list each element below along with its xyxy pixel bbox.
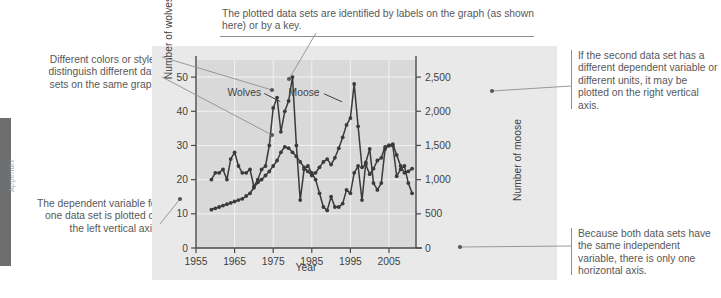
y-axis-left-title: Number of wolves xyxy=(163,0,174,98)
svg-text:1,500: 1,500 xyxy=(425,140,451,151)
annotation-top-text: The plotted data sets are identified by … xyxy=(222,8,534,31)
svg-text:500: 500 xyxy=(425,208,442,219)
annotation-bottom-left: The dependent variable for one data set … xyxy=(28,198,160,235)
figure-panel: 0102030405005001,0001,5002,0002,50019551… xyxy=(152,46,557,280)
svg-text:Moose: Moose xyxy=(289,87,320,98)
page-edge-tab: Appendix xyxy=(0,118,11,266)
annotation-bottom-right-text: Because both data sets have the same ind… xyxy=(578,228,711,276)
y-axis-right-title: Number of moose xyxy=(512,100,523,220)
svg-text:50: 50 xyxy=(177,72,189,83)
annotation-top-rule xyxy=(220,36,534,37)
svg-text:1,000: 1,000 xyxy=(425,174,451,185)
annotation-top-right: If the second data set has a different d… xyxy=(578,50,718,112)
annotation-bottom-left-text: The dependent variable for one data set … xyxy=(37,198,160,234)
svg-text:30: 30 xyxy=(177,140,189,151)
svg-text:40: 40 xyxy=(177,106,189,117)
annotation-top-left: Different colors or styles distinguish d… xyxy=(36,54,160,91)
page-edge-tab-label: Appendix xyxy=(8,121,15,231)
svg-text:2,500: 2,500 xyxy=(425,72,451,83)
svg-text:Wolves: Wolves xyxy=(227,87,261,98)
svg-text:10: 10 xyxy=(177,208,189,219)
annotation-bottom-right-rule xyxy=(571,228,572,275)
x-axis-title: Year xyxy=(196,262,416,273)
annotation-top-left-text: Different colors or styles distinguish d… xyxy=(49,54,160,90)
svg-text:20: 20 xyxy=(177,174,189,185)
svg-text:0: 0 xyxy=(182,243,188,254)
svg-text:2,000: 2,000 xyxy=(425,106,451,117)
line-chart: 0102030405005001,0001,5002,0002,50019551… xyxy=(152,46,557,280)
annotation-top: The plotted data sets are identified by … xyxy=(222,8,540,33)
annotation-bottom-right: Because both data sets have the same ind… xyxy=(578,228,720,278)
svg-text:0: 0 xyxy=(425,243,431,254)
annotation-top-right-text: If the second data set has a different d… xyxy=(578,50,718,111)
annotation-top-right-rule xyxy=(571,50,572,109)
